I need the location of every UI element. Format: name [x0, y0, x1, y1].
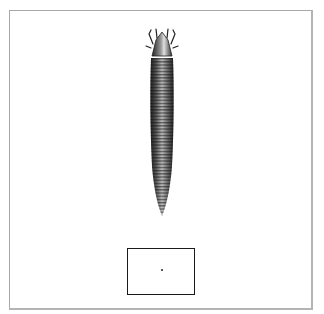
- worm-illustration: [138, 26, 186, 218]
- scale-dot: [161, 269, 163, 271]
- frame-shadow-bottom: [9, 308, 313, 310]
- scale-box: [127, 248, 195, 295]
- frame-shadow-right: [311, 10, 313, 310]
